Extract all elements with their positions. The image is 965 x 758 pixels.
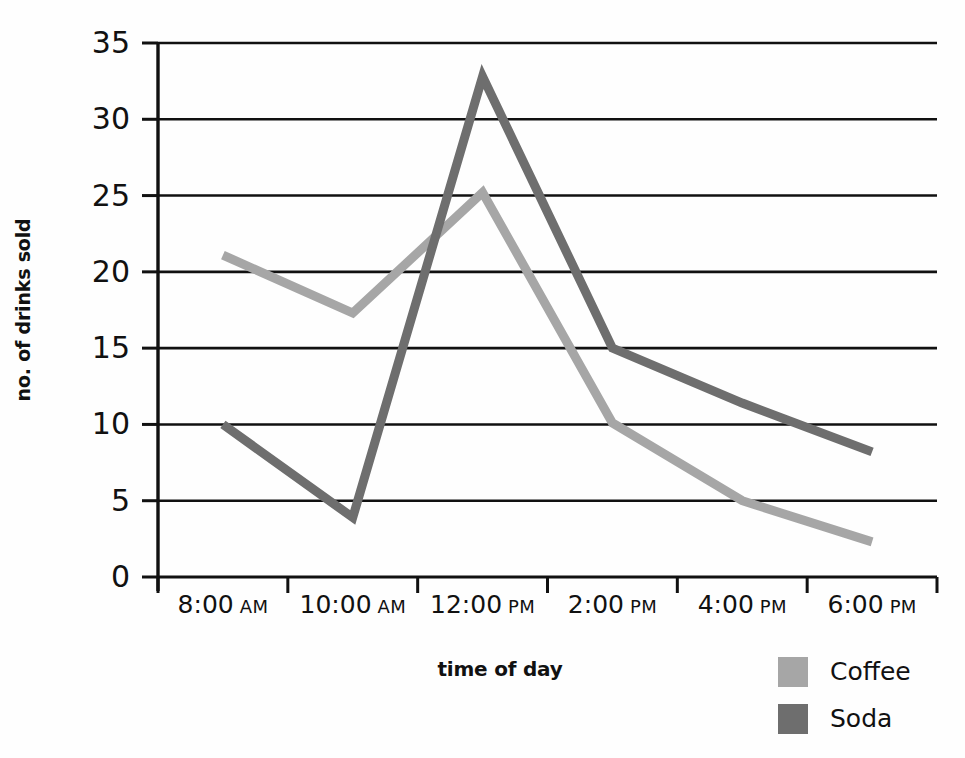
x-tick-meridiem: PM <box>624 596 657 617</box>
x-tick-meridiem: PM <box>884 596 917 617</box>
x-tick-label: 8:00 AM <box>178 592 269 617</box>
line-chart: no. of drinks sold 05101520253035 8:00 A… <box>0 0 965 758</box>
x-tick-time: 10:00 <box>299 590 371 619</box>
y-tick-label: 10 <box>74 409 130 439</box>
plot-svg <box>158 43 937 577</box>
x-tick-time: 12:00 <box>430 590 502 619</box>
x-tick-label: 6:00 PM <box>828 592 917 617</box>
x-tick-time: 4:00 <box>698 590 754 619</box>
x-tick-label: 12:00 PM <box>430 592 535 617</box>
y-tick-label: 20 <box>74 257 130 287</box>
x-tick-meridiem: PM <box>754 596 787 617</box>
y-axis-tick-labels: 05101520253035 <box>38 0 130 758</box>
legend-label: Coffee <box>830 659 911 684</box>
plot-area <box>158 43 937 577</box>
y-tick-label: 25 <box>74 181 130 211</box>
x-tick-label: 2:00 PM <box>568 592 657 617</box>
x-axis-title: time of day <box>300 657 700 681</box>
x-tick-time: 8:00 <box>178 590 234 619</box>
chart-legend: CoffeeSoda <box>778 648 965 742</box>
legend-swatch-icon <box>778 657 808 687</box>
y-tick-label: 0 <box>74 562 130 592</box>
x-tick-time: 6:00 <box>828 590 884 619</box>
x-tick-meridiem: AM <box>372 596 406 617</box>
x-tick-meridiem: AM <box>234 596 268 617</box>
y-tick-label: 15 <box>74 333 130 363</box>
x-tick-meridiem: PM <box>502 596 535 617</box>
x-axis-tick-labels: 8:00 AM10:00 AM12:00 PM2:00 PM4:00 PM6:0… <box>158 592 937 626</box>
y-tick-label: 35 <box>74 28 130 58</box>
x-tick-label: 4:00 PM <box>698 592 787 617</box>
y-tick-label: 30 <box>74 104 130 134</box>
x-tick-label: 10:00 AM <box>299 592 406 617</box>
legend-swatch-icon <box>778 704 808 734</box>
legend-label: Soda <box>830 706 892 731</box>
x-tick-time: 2:00 <box>568 590 624 619</box>
legend-item[interactable]: Coffee <box>778 648 965 695</box>
y-tick-label: 5 <box>74 486 130 516</box>
legend-item[interactable]: Soda <box>778 695 965 742</box>
